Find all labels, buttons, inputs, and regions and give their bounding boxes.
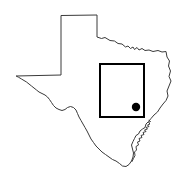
texas-map-figure [0,0,190,178]
site-location-dot [132,103,140,111]
map-canvas [0,0,190,178]
